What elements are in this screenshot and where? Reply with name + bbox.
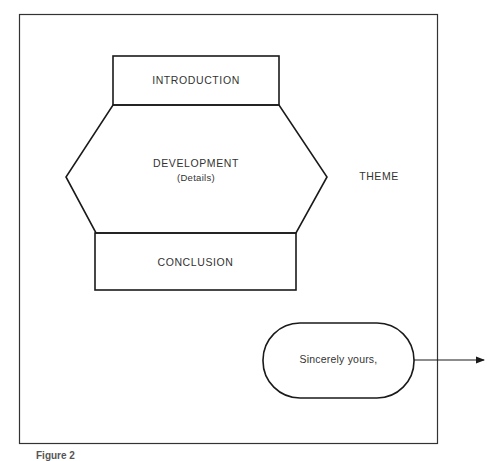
conclusion-label: CONCLUSION <box>95 256 296 268</box>
introduction-label: INTRODUCTION <box>113 74 279 86</box>
development-sublabel: (Details) <box>96 172 296 183</box>
figure-caption: Figure 2 <box>36 450 75 461</box>
closing-label: Sincerely yours, <box>263 353 414 365</box>
theme-label: THEME <box>352 170 406 182</box>
development-hexagon <box>66 105 327 233</box>
development-label: DEVELOPMENT <box>96 157 296 169</box>
